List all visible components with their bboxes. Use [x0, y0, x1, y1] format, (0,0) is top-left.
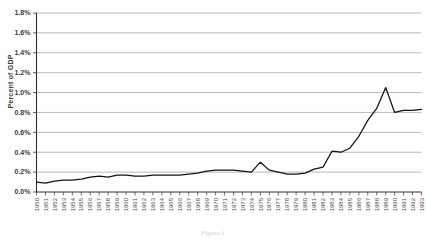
- x-tick-label: 1991: [401, 197, 407, 211]
- x-tick-label: 1981: [311, 197, 317, 211]
- x-tick-label: 1954: [70, 197, 76, 211]
- x-tick-label: 1953: [61, 197, 67, 211]
- x-tick-label: 1973: [240, 197, 246, 211]
- x-tick-label: 1989: [383, 197, 389, 211]
- chart-plot-area: 0.0%0.2%0.4%0.6%0.8%1.0%1.2%1.4%1.6%1.8%…: [0, 0, 426, 243]
- y-tick-label: 1.0%: [15, 89, 32, 96]
- x-tick-label: 1962: [141, 197, 147, 211]
- x-tick-label: 1961: [132, 197, 138, 211]
- x-tick-label: 1980: [302, 197, 308, 211]
- x-tick-labels-group: 1950195119521953195419551956195719581959…: [34, 197, 425, 211]
- x-tick-label: 1964: [159, 197, 165, 211]
- x-tick-label: 1986: [356, 197, 362, 211]
- x-tick-label: 1956: [87, 197, 93, 211]
- x-tick-label: 1959: [114, 197, 120, 211]
- x-tick-label: 1966: [177, 197, 183, 211]
- x-tick-label: 1988: [374, 197, 380, 211]
- x-tick-label: 1978: [284, 197, 290, 211]
- x-tick-label: 1979: [293, 197, 299, 211]
- x-tick-label: 1977: [275, 197, 281, 211]
- x-tick-label: 1967: [186, 197, 192, 211]
- x-tick-label: 1975: [258, 197, 264, 211]
- x-tick-label: 1974: [249, 197, 255, 211]
- x-tick-label: 1992: [410, 197, 416, 211]
- x-tick-label: 1960: [123, 197, 129, 211]
- y-tick-label: 0.0%: [15, 188, 32, 195]
- y-tick-labels-group: 0.0%0.2%0.4%0.6%0.8%1.0%1.2%1.4%1.6%1.8%: [15, 9, 32, 195]
- x-tick-label: 1952: [52, 197, 58, 211]
- x-tick-label: 1993: [419, 197, 425, 211]
- x-tick-label: 1971: [222, 197, 228, 211]
- data-series-group: [37, 88, 422, 183]
- y-tick-label: 0.4%: [15, 149, 32, 156]
- x-tick-label: 1965: [168, 197, 174, 211]
- x-tick-label: 1985: [347, 197, 353, 211]
- x-tick-label: 1987: [365, 197, 371, 211]
- data-line: [37, 88, 422, 183]
- x-tick-label: 1963: [150, 197, 156, 211]
- y-tick-label: 1.4%: [15, 49, 32, 56]
- x-tick-label: 1957: [96, 197, 102, 211]
- x-tick-label: 1972: [231, 197, 237, 211]
- x-tick-label: 1984: [338, 197, 344, 211]
- figure-caption: Figure 1: [0, 229, 426, 237]
- x-tick-label: 1983: [329, 197, 335, 211]
- y-tick-label: 0.2%: [15, 168, 32, 175]
- axis-lines-group: [37, 13, 422, 192]
- x-tick-label: 1969: [204, 197, 210, 211]
- y-tick-label: 0.8%: [15, 109, 32, 116]
- y-tick-label: 0.6%: [15, 129, 32, 136]
- y-tick-label: 1.8%: [15, 9, 32, 16]
- x-tick-label: 1950: [34, 197, 40, 211]
- gridlines-group: [37, 13, 422, 172]
- x-tick-label: 1982: [320, 197, 326, 211]
- line-chart-figure: Percent of GDP 0.0%0.2%0.4%0.6%0.8%1.0%1…: [0, 0, 426, 243]
- y-tick-label: 1.2%: [15, 69, 32, 76]
- y-tick-label: 1.6%: [15, 29, 32, 36]
- x-tick-label: 1970: [213, 197, 219, 211]
- x-tick-label: 1968: [195, 197, 201, 211]
- x-tick-label: 1976: [266, 197, 272, 211]
- x-tick-label: 1990: [392, 197, 398, 211]
- x-tick-label: 1958: [105, 197, 111, 211]
- x-tick-label: 1955: [78, 197, 84, 211]
- x-tick-label: 1951: [43, 197, 49, 211]
